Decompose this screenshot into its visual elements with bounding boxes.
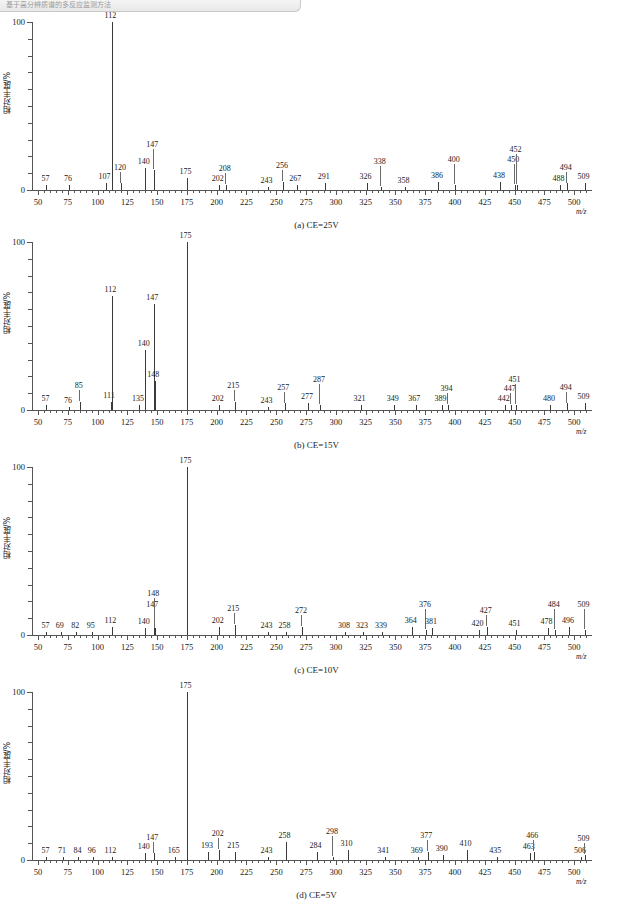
- x-axis-tick: [526, 635, 527, 638]
- x-axis-tick: [276, 190, 277, 195]
- x-axis-tick: [38, 860, 39, 865]
- y-axis-tick-label: 0: [0, 855, 25, 865]
- x-axis-tick: [288, 190, 289, 193]
- peak-label: 193: [201, 841, 213, 850]
- x-axis-tick-label: 100: [83, 197, 113, 207]
- spectrum-peak: [416, 405, 417, 410]
- x-axis-tick-label: 125: [112, 867, 142, 877]
- peak-label: 478: [541, 617, 553, 626]
- spectrum-peak: [46, 185, 47, 190]
- x-axis-tick: [205, 860, 206, 863]
- y-axis-tick: [28, 123, 32, 124]
- x-axis-tick-label: 300: [321, 642, 351, 652]
- x-axis-tick-label: 300: [321, 417, 351, 427]
- y-axis-tick-label: 100: [0, 237, 25, 247]
- x-axis-tick: [217, 190, 218, 195]
- x-axis-tick: [479, 860, 480, 863]
- x-axis-tick: [282, 860, 283, 863]
- peak-label: 243: [261, 846, 273, 855]
- x-axis-tick-label: 75: [53, 417, 83, 427]
- x-axis-tick: [133, 860, 134, 863]
- y-axis-tick: [28, 776, 32, 777]
- x-axis-tick: [294, 635, 295, 638]
- x-axis-tick: [395, 410, 396, 415]
- x-axis-tick: [342, 635, 343, 638]
- y-axis-tick: [28, 39, 32, 40]
- x-axis-tick: [157, 635, 158, 640]
- x-axis-tick: [586, 635, 587, 638]
- x-axis-tick: [306, 410, 307, 415]
- x-axis-tick-label: 350: [380, 867, 410, 877]
- x-axis-tick: [378, 410, 379, 413]
- x-axis-tick: [92, 190, 93, 193]
- x-axis-tick: [175, 190, 176, 193]
- y-axis-tick: [28, 292, 32, 293]
- x-axis-tick: [526, 860, 527, 863]
- x-axis-tick: [187, 410, 188, 415]
- x-axis-tick: [509, 190, 510, 193]
- peak-label-leader-line: [284, 392, 285, 403]
- x-axis-tick: [330, 410, 331, 413]
- x-axis-tick-label: 450: [500, 867, 530, 877]
- x-axis-tick: [568, 410, 569, 413]
- x-axis-tick: [223, 410, 224, 413]
- peak-label: 291: [318, 172, 330, 181]
- spectrum-peak: [317, 852, 318, 860]
- x-axis-tick: [491, 635, 492, 638]
- x-axis-tick: [580, 410, 581, 413]
- x-axis-tick: [288, 410, 289, 413]
- x-axis-tick: [306, 190, 307, 195]
- spectrum-peak: [283, 182, 284, 190]
- peak-label: 202: [212, 394, 224, 403]
- x-axis-tick: [383, 190, 384, 193]
- spectrum-peak: [534, 852, 535, 860]
- x-axis-tick: [264, 860, 265, 863]
- x-axis-tick-label: 225: [231, 642, 261, 652]
- x-axis-tick: [485, 190, 486, 195]
- y-axis-tick: [28, 709, 32, 710]
- spectrum-peak: [567, 183, 568, 190]
- x-axis-tick: [544, 410, 545, 415]
- x-axis-tick-label: 100: [83, 417, 113, 427]
- peak-label: 494: [560, 383, 572, 392]
- spectrum-peak: [345, 632, 346, 635]
- x-axis-tick: [252, 190, 253, 193]
- peak-label: 484: [548, 600, 560, 609]
- spectrum-peak: [382, 632, 383, 635]
- x-axis-tick-label: 400: [440, 867, 470, 877]
- x-axis-tick-label: 450: [500, 642, 530, 652]
- spectrum-peak: [585, 630, 586, 635]
- x-axis-tick-label: 325: [351, 867, 381, 877]
- x-axis-tick-label: 475: [529, 197, 559, 207]
- spectrum-peak: [560, 185, 561, 190]
- spectrum-peak: [235, 402, 236, 410]
- x-axis-tick: [473, 860, 474, 863]
- x-axis-tick: [580, 860, 581, 863]
- spectrum-peak: [268, 407, 269, 410]
- x-axis-tick: [282, 410, 283, 413]
- x-axis-tick-label: 425: [470, 867, 500, 877]
- x-axis-tick-label: 275: [291, 867, 321, 877]
- peak-label-leader-line: [427, 840, 428, 851]
- x-axis-title: m/z: [576, 877, 586, 886]
- peak-label: 148: [147, 589, 159, 598]
- x-axis-tick: [449, 410, 450, 413]
- peak-label: 175: [180, 167, 192, 176]
- x-axis-tick: [449, 190, 450, 193]
- spectrum-peak: [325, 183, 326, 190]
- y-axis-line: [32, 242, 33, 410]
- peak-label: 71: [58, 846, 66, 855]
- x-axis-tick-label: 475: [529, 417, 559, 427]
- x-axis-tick: [223, 860, 224, 863]
- peak-label: 112: [104, 846, 116, 855]
- x-axis-tick-label: 325: [351, 417, 381, 427]
- spectrum-peak: [505, 405, 506, 410]
- x-axis-tick: [538, 860, 539, 863]
- peak-label: 258: [278, 831, 290, 840]
- spectrum-peak: [426, 630, 427, 635]
- x-axis-tick-label: 150: [142, 197, 172, 207]
- peak-label: 509: [578, 392, 590, 401]
- x-axis-tick: [407, 635, 408, 638]
- x-axis-tick: [145, 635, 146, 638]
- x-axis-tick: [425, 190, 426, 195]
